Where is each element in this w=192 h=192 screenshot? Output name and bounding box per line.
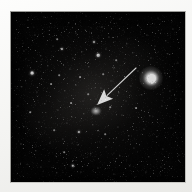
star-point xyxy=(104,133,106,135)
star-point xyxy=(83,101,84,102)
star-point xyxy=(117,126,118,127)
astronomical-figure xyxy=(0,0,192,192)
star-point xyxy=(170,127,171,128)
arrow-shaft xyxy=(107,68,136,95)
star-point xyxy=(126,43,127,44)
star-point xyxy=(109,106,111,108)
star-point xyxy=(164,72,165,73)
star-point xyxy=(69,68,70,69)
star-point xyxy=(137,24,138,25)
star-point xyxy=(20,143,21,144)
star-point xyxy=(133,147,134,148)
star-point xyxy=(86,16,87,17)
sky-field-plate xyxy=(10,11,186,183)
star-point xyxy=(175,113,176,114)
star-point xyxy=(77,144,78,145)
star-point xyxy=(180,98,181,99)
bright-star xyxy=(139,66,163,90)
star-point xyxy=(72,117,73,118)
star-point xyxy=(34,34,35,35)
star-point xyxy=(44,103,45,104)
star-point xyxy=(177,62,178,63)
star-point xyxy=(132,52,133,53)
star-point xyxy=(97,167,98,168)
star-point xyxy=(66,122,67,123)
arrow-head xyxy=(97,89,113,105)
star-point xyxy=(150,57,151,58)
star-point xyxy=(97,54,100,57)
annotation-arrow xyxy=(10,11,186,183)
star-point xyxy=(120,19,121,20)
star-point xyxy=(102,73,104,75)
star-point xyxy=(165,40,166,41)
star-point xyxy=(162,148,163,149)
star-point xyxy=(118,92,119,93)
star-point xyxy=(156,136,157,137)
star-point xyxy=(57,109,58,110)
star-point xyxy=(68,22,69,23)
star-point xyxy=(80,171,81,172)
star-point xyxy=(49,142,50,143)
star-point xyxy=(81,51,82,52)
star-point xyxy=(78,131,80,133)
star-point xyxy=(83,113,84,114)
star-point xyxy=(161,105,162,106)
star-point xyxy=(23,126,24,127)
star-point xyxy=(72,57,73,58)
star-point xyxy=(129,165,130,166)
star-point xyxy=(53,46,54,47)
film-grain xyxy=(10,11,186,183)
star-point xyxy=(56,172,57,173)
star-point xyxy=(93,41,95,43)
star-point xyxy=(53,129,55,131)
star-point xyxy=(121,114,122,115)
star-point xyxy=(101,26,102,27)
star-point xyxy=(31,72,34,75)
bright-star-core xyxy=(147,74,156,83)
star-point xyxy=(75,32,76,33)
star-point xyxy=(178,154,179,155)
star-point xyxy=(119,155,120,156)
star-point xyxy=(79,76,81,78)
star-point xyxy=(87,93,89,95)
star-point xyxy=(35,150,36,151)
nebulosity-glow xyxy=(10,11,186,183)
star-point xyxy=(155,46,156,47)
star-point xyxy=(105,48,106,49)
star-point xyxy=(172,28,173,29)
star-point xyxy=(40,55,41,56)
star-point xyxy=(47,65,48,66)
star-point xyxy=(169,90,170,91)
star-point xyxy=(70,102,72,104)
star-point xyxy=(113,173,114,174)
star-point xyxy=(158,18,159,19)
star-point xyxy=(96,99,97,100)
star-point xyxy=(17,105,18,106)
star-point xyxy=(92,124,93,125)
star-point xyxy=(63,151,65,153)
star-point xyxy=(124,76,125,77)
star-point xyxy=(29,111,31,113)
star-point xyxy=(113,67,114,68)
star-point xyxy=(27,19,28,20)
star-point xyxy=(145,171,146,172)
star-point xyxy=(88,66,89,67)
star-point xyxy=(115,59,117,61)
star-point xyxy=(137,70,138,71)
star-point xyxy=(56,38,58,40)
star-point xyxy=(40,166,41,167)
star-point xyxy=(130,85,131,86)
star-point xyxy=(23,50,24,51)
star-point xyxy=(38,121,39,122)
star-point xyxy=(21,86,22,87)
star-point xyxy=(148,156,149,157)
star-point xyxy=(105,146,106,147)
star-point xyxy=(58,74,60,76)
star-point xyxy=(149,115,150,116)
star-point xyxy=(100,87,101,88)
star-point xyxy=(141,94,142,95)
star-point xyxy=(111,81,112,82)
star-point xyxy=(160,166,161,167)
target-object xyxy=(91,107,102,116)
star-point xyxy=(50,83,52,85)
